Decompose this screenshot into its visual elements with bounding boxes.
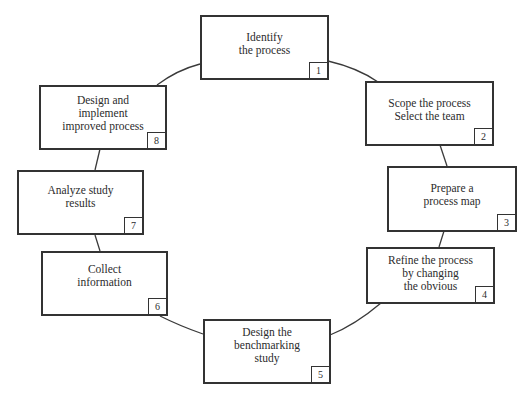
connector-2-to-3	[440, 145, 447, 166]
step-number: 3	[497, 214, 516, 231]
connector-4-to-5	[330, 303, 381, 335]
connector-7-to-8	[95, 149, 100, 170]
step-label: Design the benchmarking study	[234, 326, 300, 365]
step-5-design-benchmarking-study: Design the benchmarking study 5	[203, 319, 331, 384]
step-4-refine-process: Refine the process by changing the obvio…	[366, 247, 495, 304]
step-8-design-implement-improved-process: Design and implement improved process 8	[39, 85, 167, 150]
step-6-collect-information: Collect information 6	[41, 251, 168, 316]
step-3-prepare-process-map: Prepare a process map 3	[387, 166, 517, 232]
connector-3-to-4	[439, 231, 444, 247]
step-number: 8	[147, 132, 166, 149]
step-7-analyze-study-results: Analyze study results 7	[17, 170, 144, 235]
step-label: Scope the process Select the team	[388, 97, 470, 123]
step-number: 2	[474, 128, 493, 145]
step-label: Design and implement improved process	[62, 94, 143, 133]
step-1-identify-process: Identify the process 1	[200, 15, 329, 80]
step-number: 7	[124, 217, 143, 234]
step-label: Prepare a process map	[423, 182, 480, 208]
step-number: 5	[311, 366, 330, 383]
connector-6-to-7	[95, 235, 100, 251]
connector-8-to-1	[157, 64, 200, 85]
step-label: Identify the process	[239, 31, 290, 57]
connector-5-to-6	[160, 316, 203, 334]
connector-1-to-2	[328, 61, 378, 82]
step-label: Collect information	[77, 263, 131, 289]
step-number: 4	[475, 286, 494, 303]
step-number: 1	[309, 62, 328, 79]
step-label: Refine the process by changing the obvio…	[388, 254, 473, 293]
benchmarking-process-cycle-diagram: Identify the process 1 Scope the process…	[0, 0, 532, 403]
step-number: 6	[148, 298, 167, 315]
step-2-scope-process: Scope the process Select the team 2	[365, 81, 494, 146]
step-label: Analyze study results	[47, 184, 113, 210]
